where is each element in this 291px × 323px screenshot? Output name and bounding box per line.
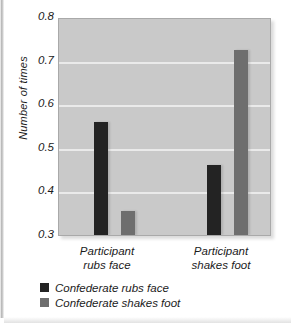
bar-0-0 xyxy=(94,122,108,235)
y-tick-label-5: 0.3 xyxy=(20,228,54,240)
y-tick-label-3: 0.5 xyxy=(20,141,54,153)
y-tick-label-1: 0.7 xyxy=(20,54,54,66)
legend-item-0: Confederate rubs face xyxy=(40,280,180,295)
bar-1-0 xyxy=(207,165,221,235)
bar-0-1 xyxy=(121,211,135,235)
legend-swatch-0 xyxy=(40,283,49,292)
x-axis-category-label-1: Participantshakes foot xyxy=(166,244,276,272)
y-tick-label-4: 0.4 xyxy=(20,184,54,196)
figure-card: Number of times 0.80.70.60.50.40.3 Parti… xyxy=(0,0,291,323)
y-axis-tick-labels: 0.80.70.60.50.40.3 xyxy=(16,18,54,236)
x-axis-category-1-line-0: Participant xyxy=(166,244,276,258)
x-axis-category-0-line-0: Participant xyxy=(52,244,162,258)
legend-label-0: Confederate rubs face xyxy=(55,282,169,294)
x-axis-category-label-0: Participantrubs face xyxy=(52,244,162,272)
legend-label-1: Confederate shakes foot xyxy=(55,297,180,309)
bar-1-1 xyxy=(234,50,248,235)
page-bottom-edge xyxy=(4,317,291,323)
plot-area xyxy=(58,18,271,236)
legend-swatch-1 xyxy=(40,298,49,307)
chart-legend: Confederate rubs faceConfederate shakes … xyxy=(40,280,180,310)
x-axis-category-0-line-1: rubs face xyxy=(52,258,162,272)
page-spine xyxy=(0,0,4,318)
x-axis-category-1-line-1: shakes foot xyxy=(166,258,276,272)
y-tick-label-0: 0.8 xyxy=(20,10,54,22)
legend-item-1: Confederate shakes foot xyxy=(40,295,180,310)
y-tick-label-2: 0.6 xyxy=(20,97,54,109)
